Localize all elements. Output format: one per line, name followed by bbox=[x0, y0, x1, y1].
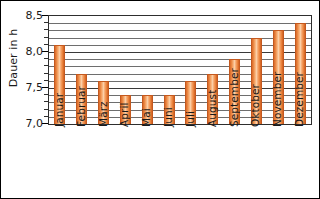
x-label-slot: Juli bbox=[179, 125, 201, 199]
x-tick-label: Januar bbox=[53, 93, 65, 127]
x-tick-label: April bbox=[118, 103, 130, 128]
x-tick-label: Dezember bbox=[293, 72, 305, 127]
x-label-slot: Oktober bbox=[244, 125, 266, 199]
chart-figure: Dauer in h 7,07,58,08,5 JanuarFebruarMär… bbox=[0, 0, 320, 199]
y-tick-label: 8,5 bbox=[17, 9, 43, 22]
x-tick-label: November bbox=[271, 72, 283, 127]
x-label-slot: September bbox=[223, 125, 245, 199]
x-label-slot: August bbox=[201, 125, 223, 199]
y-tick-label: 7,0 bbox=[17, 117, 43, 130]
x-tick-label: Juni bbox=[162, 107, 174, 127]
x-axis-tick-labels: JanuarFebruarMärzAprilMaiJuniJuliAugustS… bbox=[48, 125, 310, 199]
x-tick-label: Mai bbox=[140, 108, 152, 127]
x-tick-label: August bbox=[206, 90, 218, 127]
x-label-slot: Dezember bbox=[288, 125, 310, 199]
x-tick-label: Juli bbox=[184, 111, 196, 127]
x-label-slot: April bbox=[113, 125, 135, 199]
x-label-slot: Mai bbox=[135, 125, 157, 199]
x-label-slot: Februar bbox=[70, 125, 92, 199]
x-label-slot: November bbox=[266, 125, 288, 199]
x-label-slot: Januar bbox=[48, 125, 70, 199]
y-tick-label: 8,0 bbox=[17, 45, 43, 58]
x-tick-label: Februar bbox=[75, 86, 87, 127]
x-label-slot: Juni bbox=[157, 125, 179, 199]
x-tick-label: März bbox=[97, 101, 109, 127]
x-tick-label: September bbox=[228, 68, 240, 127]
y-tick-label: 7,5 bbox=[17, 81, 43, 94]
y-axis-tick-labels: 7,07,58,08,5 bbox=[13, 15, 43, 123]
x-tick-label: Oktober bbox=[249, 84, 261, 127]
x-label-slot: März bbox=[92, 125, 114, 199]
bar-slot bbox=[180, 16, 202, 124]
